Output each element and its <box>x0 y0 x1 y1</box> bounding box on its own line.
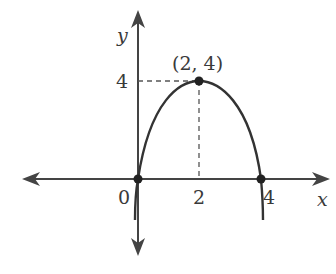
point-vertex <box>195 77 204 86</box>
y-tick-4: 4 <box>116 70 128 92</box>
y-axis-label: y <box>116 24 128 46</box>
parabola-graph: y (2, 4) 4 0 2 4 x <box>0 0 336 274</box>
point-origin <box>134 175 143 184</box>
x-axis-label: x <box>317 188 328 210</box>
point-x-intercept-4 <box>257 175 266 184</box>
x-tick-2: 2 <box>193 186 205 208</box>
vertex-label: (2, 4) <box>172 52 223 74</box>
x-tick-4: 4 <box>263 186 275 208</box>
x-tick-0: 0 <box>118 186 130 208</box>
